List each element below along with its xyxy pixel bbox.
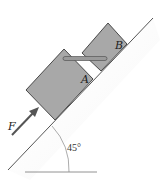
label-force: F bbox=[7, 120, 16, 133]
label-block-a: A bbox=[80, 73, 89, 86]
label-block-b: B bbox=[114, 39, 123, 52]
force-arrow bbox=[12, 107, 39, 135]
label-angle: 45° bbox=[67, 142, 81, 153]
diagram-canvas: A B F 45° bbox=[0, 0, 164, 189]
incline-shading bbox=[8, 18, 160, 180]
connecting-rod bbox=[63, 57, 107, 61]
